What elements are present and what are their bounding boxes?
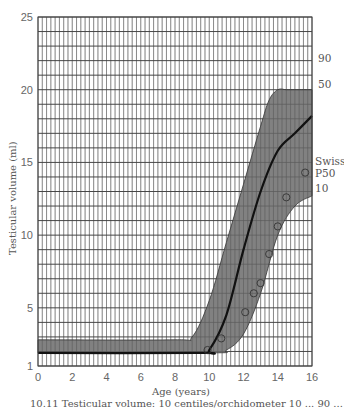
label-p10: 10: [315, 182, 328, 194]
x-tick-label: 0: [35, 371, 41, 383]
y-tick-label: 5: [27, 302, 33, 314]
y-tick-label: 1: [27, 360, 33, 372]
label-p90: 90: [318, 52, 331, 64]
x-tick-label: 16: [306, 371, 318, 383]
y-tick-label: 10: [21, 229, 33, 241]
x-axis-ticks: 0246810121416: [35, 371, 318, 383]
label-swiss: Swiss: [315, 155, 344, 167]
x-tick-label: 4: [103, 371, 109, 383]
x-tick-label: 2: [69, 371, 75, 383]
x-tick-label: 6: [138, 371, 144, 383]
x-tick-label: 8: [172, 371, 178, 383]
figure-caption: 10.11 Testicular volume: 10 centiles/orc…: [30, 398, 343, 409]
y-tick-label: 20: [21, 84, 33, 96]
y-axis-label: Testicular volume (ml): [7, 141, 18, 255]
y-tick-label: 15: [21, 156, 33, 168]
x-tick-label: 14: [272, 371, 284, 383]
label-p50: 50: [318, 78, 331, 90]
label-swiss-p50: P50: [315, 167, 335, 179]
testicular-volume-chart: 1510152025 0246810121416 90 50 Swiss P50…: [0, 0, 344, 409]
y-axis-ticks: 1510152025: [21, 11, 33, 372]
y-tick-label: 25: [21, 11, 33, 23]
x-tick-label: 10: [203, 371, 215, 383]
x-tick-label: 12: [237, 371, 249, 383]
x-axis-label: Age (years): [151, 386, 210, 397]
